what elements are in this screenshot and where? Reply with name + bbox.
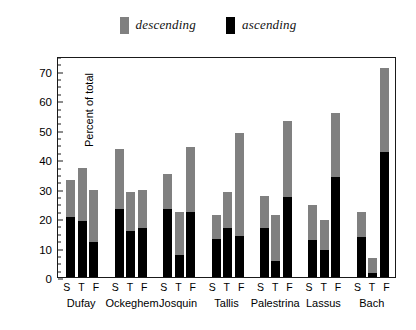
x-subcategory-labels: S T F bbox=[251, 281, 299, 293]
x-subcategory-labels: S T F bbox=[202, 281, 250, 293]
bar-ockeghem-f bbox=[138, 190, 147, 277]
x-group-label: Bach bbox=[348, 297, 396, 309]
y-tick-label: 70 bbox=[39, 67, 52, 79]
bar-segment-descending bbox=[260, 196, 269, 228]
bar-bach-t bbox=[368, 258, 377, 277]
bar-segment-descending bbox=[66, 180, 75, 217]
bar-segment-descending bbox=[212, 215, 221, 239]
x-subcategory-labels: S T F bbox=[57, 281, 105, 293]
bar-segment-ascending bbox=[78, 221, 87, 277]
bar-bach-f bbox=[380, 68, 389, 277]
bar-segment-ascending bbox=[357, 237, 366, 277]
bar-josquin-f bbox=[186, 147, 195, 277]
legend-swatch-ascending bbox=[226, 17, 235, 34]
bar-segment-ascending bbox=[115, 209, 124, 277]
bar-segment-ascending bbox=[138, 228, 147, 277]
bar-tallis-f bbox=[235, 133, 244, 277]
legend-label-ascending: ascending bbox=[242, 17, 297, 33]
x-group-label: Dufay bbox=[57, 297, 105, 309]
bar-segment-descending bbox=[163, 174, 172, 209]
legend-label-descending: descending bbox=[136, 17, 196, 33]
bar-segment-descending bbox=[357, 212, 366, 237]
x-group-tallis: S T FTallis bbox=[202, 281, 250, 309]
bar-dufay-f bbox=[89, 190, 98, 277]
bar-dufay-s bbox=[66, 180, 75, 277]
bar-segment-ascending bbox=[380, 152, 389, 277]
bar-segment-ascending bbox=[186, 212, 195, 277]
bar-segment-ascending bbox=[271, 261, 280, 277]
bar-segment-descending bbox=[235, 133, 244, 236]
y-tick-label: 20 bbox=[39, 214, 52, 226]
x-group-label: Ockeghem bbox=[105, 297, 153, 309]
y-tick-label: 60 bbox=[39, 96, 52, 108]
bars-layer bbox=[58, 58, 395, 277]
bar-segment-descending bbox=[126, 192, 135, 232]
x-group-palestrina: S T FPalestrina bbox=[251, 281, 299, 309]
bar-segment-ascending bbox=[283, 197, 292, 277]
x-group-dufay: S T FDufay bbox=[57, 281, 105, 309]
bar-segment-descending bbox=[331, 113, 340, 176]
bar-segment-ascending bbox=[331, 177, 340, 277]
bar-segment-descending bbox=[175, 212, 184, 255]
x-group-label: Lassus bbox=[299, 297, 347, 309]
bar-ockeghem-s bbox=[115, 149, 124, 277]
y-tick-label: 50 bbox=[39, 126, 52, 138]
bar-segment-ascending bbox=[163, 209, 172, 277]
x-subcategory-labels: S T F bbox=[154, 281, 202, 293]
bar-segment-descending bbox=[380, 68, 389, 152]
legend-entry-descending: descending bbox=[120, 17, 196, 34]
bar-segment-descending bbox=[89, 190, 98, 242]
bar-segment-descending bbox=[308, 205, 317, 240]
y-tick-label: 40 bbox=[39, 155, 52, 167]
x-group-bach: S T FBach bbox=[348, 281, 396, 309]
bar-segment-ascending bbox=[212, 239, 221, 277]
x-group-josquin: S T FJosquin bbox=[154, 281, 202, 309]
bar-segment-ascending bbox=[235, 236, 244, 277]
bar-segment-descending bbox=[320, 220, 329, 251]
x-subcategory-labels: S T F bbox=[105, 281, 153, 293]
x-group-label: Josquin bbox=[154, 297, 202, 309]
bar-segment-ascending bbox=[175, 255, 184, 277]
legend-entry-ascending: ascending bbox=[226, 17, 297, 34]
y-tick-label: 10 bbox=[39, 244, 52, 256]
bar-segment-ascending bbox=[89, 242, 98, 277]
bar-lassus-s bbox=[308, 205, 317, 277]
bar-segment-ascending bbox=[126, 231, 135, 277]
bar-lassus-t bbox=[320, 220, 329, 277]
x-group-label: Tallis bbox=[202, 297, 250, 309]
x-group-ockeghem: S T FOckeghem bbox=[105, 281, 153, 309]
bar-segment-descending bbox=[368, 258, 377, 273]
bar-segment-descending bbox=[115, 149, 124, 209]
bar-segment-descending bbox=[283, 121, 292, 198]
y-tick-major bbox=[58, 279, 63, 280]
bar-palestrina-s bbox=[260, 196, 269, 277]
bar-josquin-s bbox=[163, 174, 172, 277]
bar-segment-ascending bbox=[320, 250, 329, 277]
bar-segment-descending bbox=[186, 147, 195, 212]
bar-segment-descending bbox=[138, 190, 147, 228]
bar-segment-descending bbox=[271, 215, 280, 261]
bar-palestrina-f bbox=[283, 121, 292, 277]
bar-palestrina-t bbox=[271, 215, 280, 277]
y-tick-label: 30 bbox=[39, 185, 52, 197]
bar-segment-ascending bbox=[223, 228, 232, 277]
bar-segment-ascending bbox=[308, 240, 317, 277]
bar-segment-descending bbox=[223, 192, 232, 229]
y-tick-label: 0 bbox=[46, 273, 52, 285]
x-group-label: Palestrina bbox=[251, 297, 299, 309]
chart-legend: descending ascending bbox=[0, 12, 416, 38]
bar-bach-s bbox=[357, 212, 366, 277]
x-subcategory-labels: S T F bbox=[348, 281, 396, 293]
x-axis-labels: S T FDufayS T FOckeghemS T FJosquinS T F… bbox=[57, 281, 396, 327]
bar-josquin-t bbox=[175, 212, 184, 277]
bar-dufay-t bbox=[78, 168, 87, 277]
bar-segment-ascending bbox=[260, 228, 269, 277]
bar-ockeghem-t bbox=[126, 192, 135, 277]
bar-segment-descending bbox=[78, 168, 87, 221]
bar-tallis-t bbox=[223, 192, 232, 277]
bar-tallis-s bbox=[212, 215, 221, 277]
x-group-lassus: S T FLassus bbox=[299, 281, 347, 309]
plot-area: Percent of total 010203040506070 bbox=[57, 57, 396, 278]
legend-swatch-descending bbox=[120, 17, 129, 34]
bar-segment-ascending bbox=[66, 217, 75, 277]
